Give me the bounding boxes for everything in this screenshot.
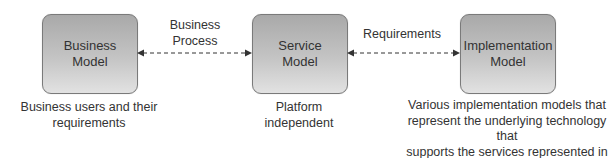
double-arrow-dashed-icon xyxy=(137,48,252,58)
caption-line: Various implementation models that xyxy=(400,98,613,114)
box-label: Business xyxy=(64,38,117,54)
double-arrow-dashed-icon xyxy=(347,48,460,58)
business-model-box: BusinessModel xyxy=(42,14,138,94)
caption-line: Business users and their xyxy=(14,100,164,116)
business-model-caption: Business users and their requirements xyxy=(14,100,164,131)
connector-label-line: Process xyxy=(160,34,230,50)
caption-line: supports the services represented in the xyxy=(400,145,613,159)
connector-label-line: Business xyxy=(160,18,230,34)
connector-label-business-process: Business Process xyxy=(160,18,230,49)
caption-line: independent xyxy=(250,116,348,132)
box-label: Model xyxy=(64,54,117,70)
box-label: Model xyxy=(278,54,321,70)
service-model-box: ServiceModel xyxy=(252,14,348,94)
implementation-model-caption: Various implementation models that repre… xyxy=(400,98,613,158)
connector-label-requirements: Requirements xyxy=(362,27,442,43)
caption-line: requirements xyxy=(14,116,164,132)
service-model-caption: Platform independent xyxy=(250,100,348,131)
caption-line: Platform xyxy=(250,100,348,116)
box-label: Implementation xyxy=(464,38,553,54)
box-label: Model xyxy=(464,54,553,70)
connector-label-line: Requirements xyxy=(362,27,442,43)
caption-line: represent the underlying technology that xyxy=(400,114,613,145)
implementation-model-box: ImplementationModel xyxy=(460,14,556,94)
box-label: Service xyxy=(278,38,321,54)
